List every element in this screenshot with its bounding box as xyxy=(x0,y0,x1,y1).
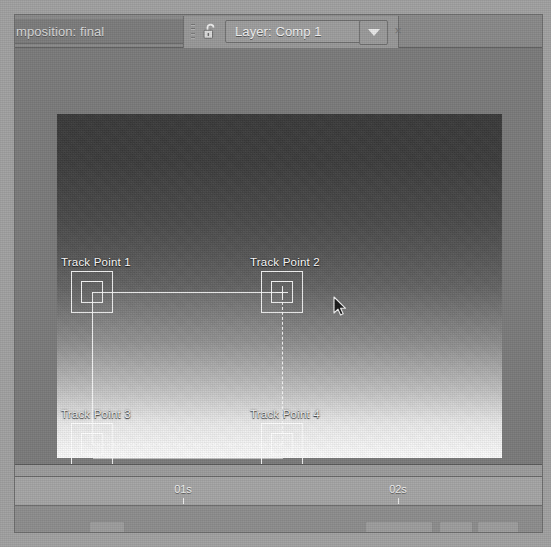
panel-tab-bar: mposition: final Layer: Comp 1 × xyxy=(15,15,542,48)
track-point-4-label: Track Point 4 xyxy=(250,408,320,420)
track-point-2-label: Track Point 2 xyxy=(250,256,320,268)
mouse-pointer-icon xyxy=(333,296,347,317)
layer-viewer-canvas[interactable]: Track Point 1 Track Point 2 Track Point … xyxy=(57,114,502,458)
tab-layer-comp1-label: Layer: Comp 1 xyxy=(235,24,322,39)
tab-composition-label: mposition: final xyxy=(16,24,104,39)
timeline-panel[interactable]: 01s 02s xyxy=(15,464,542,532)
panel-grip-handle[interactable] xyxy=(191,24,195,39)
track-point-3-feature-box[interactable] xyxy=(81,433,103,455)
timeline-control-right2[interactable] xyxy=(477,521,519,533)
track-point-1-label: Track Point 1 xyxy=(61,256,131,268)
timeline-control-left[interactable] xyxy=(89,521,125,533)
timeline-controls-strip[interactable] xyxy=(15,506,542,532)
track-edge-right xyxy=(282,292,283,444)
track-point-3-label: Track Point 3 xyxy=(61,408,131,420)
padlock-open-icon[interactable] xyxy=(203,23,218,40)
tab-composition[interactable]: mposition: final xyxy=(14,18,196,44)
track-region-fill xyxy=(93,293,282,444)
timeline-tick-label-02s: 02s xyxy=(389,483,407,495)
track-point-4-feature-box[interactable] xyxy=(271,433,293,455)
track-baseline xyxy=(93,458,283,459)
timeline-tick-label-01s: 01s xyxy=(174,483,192,495)
chevron-down-glyph xyxy=(368,29,380,36)
timeline-control-right1[interactable] xyxy=(439,521,473,533)
track-edge-top xyxy=(92,292,282,293)
close-icon[interactable]: × xyxy=(392,25,404,37)
tab-layer-comp1[interactable]: Layer: Comp 1 xyxy=(225,20,363,43)
track-point-1-feature-box[interactable] xyxy=(81,281,103,303)
track-point-2-crosshair-vertical xyxy=(282,286,283,298)
chevron-down-icon[interactable] xyxy=(359,20,388,45)
timeline-tick-mark-02s xyxy=(398,498,399,504)
timeline-tick-mark-01s xyxy=(183,498,184,504)
track-edge-left xyxy=(92,292,93,444)
timeline-control-mid[interactable] xyxy=(365,521,433,533)
timeline-ruler[interactable]: 01s 02s xyxy=(15,477,542,506)
layer-panel: mposition: final Layer: Comp 1 × xyxy=(14,14,543,533)
app-window: mposition: final Layer: Comp 1 × xyxy=(0,0,551,547)
track-edge-bottom xyxy=(92,444,282,445)
layer-viewer[interactable]: Track Point 1 Track Point 2 Track Point … xyxy=(15,48,542,467)
timeline-top-strip xyxy=(15,465,542,477)
